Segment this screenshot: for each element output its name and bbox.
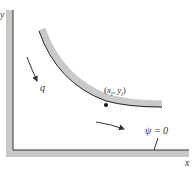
diagram-canvas (0, 0, 195, 169)
flow-label-q: q (40, 83, 45, 93)
psi-leader-line (154, 138, 158, 150)
point-label: (xi, yi) (104, 86, 126, 97)
y-axis-label: y (0, 10, 4, 20)
corner-flow-diagram: y x q (xi, yi) ψ = 0 (0, 0, 195, 169)
flow-arrow-bottom (96, 122, 124, 129)
point-marker (104, 103, 108, 107)
flow-arrow-q (27, 57, 37, 81)
streamline-label: ψ = 0 (145, 126, 168, 136)
streamline-curve (39, 29, 162, 107)
x-axis-label: x (185, 158, 189, 168)
